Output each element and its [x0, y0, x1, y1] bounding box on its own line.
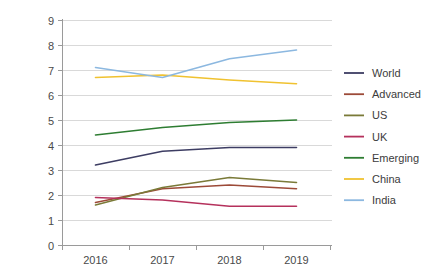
y-axis-tick-label: 4	[48, 140, 54, 152]
legend-label-india[interactable]: India	[372, 194, 397, 206]
series-line-world	[96, 148, 297, 166]
y-axis: 0123456789	[48, 15, 63, 252]
legend-label-us[interactable]: US	[372, 109, 387, 121]
series-line-uk	[96, 198, 297, 207]
gridlines	[62, 21, 332, 246]
x-axis: 2016201720182019	[62, 245, 332, 266]
legend-label-china[interactable]: China	[372, 173, 402, 185]
x-axis-tick-label: 2018	[217, 254, 241, 266]
legend-label-world[interactable]: World	[372, 67, 401, 79]
series-line-china	[96, 75, 297, 84]
y-axis-tick-label: 8	[48, 40, 54, 52]
legend-label-advanced[interactable]: Advanced	[372, 88, 421, 100]
y-axis-tick-label: 2	[48, 190, 54, 202]
chart-legend: WorldAdvancedUSUKEmergingChinaIndia	[344, 67, 421, 206]
y-axis-tick-label: 5	[48, 115, 54, 127]
line-chart-figure: 0123456789 2016201720182019 WorldAdvance…	[0, 0, 428, 266]
series-lines	[96, 50, 297, 206]
series-line-us	[96, 178, 297, 206]
y-axis-tick-label: 6	[48, 90, 54, 102]
chart-canvas: 0123456789 2016201720182019 WorldAdvance…	[0, 0, 428, 266]
y-axis-tick-label: 1	[48, 215, 54, 227]
y-axis-tick-label: 7	[48, 65, 54, 77]
series-line-advanced	[96, 185, 297, 203]
y-axis-tick-label: 3	[48, 165, 54, 177]
series-line-emerging	[96, 120, 297, 135]
legend-label-emerging[interactable]: Emerging	[372, 152, 419, 164]
y-axis-tick-label: 9	[48, 15, 54, 27]
series-line-india	[96, 50, 297, 78]
legend-label-uk[interactable]: UK	[372, 131, 388, 143]
x-axis-tick-label: 2017	[150, 254, 174, 266]
x-axis-tick-label: 2019	[284, 254, 308, 266]
y-axis-tick-label: 0	[48, 240, 54, 252]
x-axis-tick-label: 2016	[83, 254, 107, 266]
